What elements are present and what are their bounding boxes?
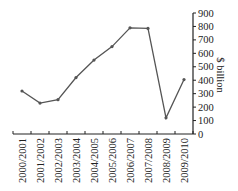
- x-tick-label: 2007/2008: [143, 138, 154, 183]
- data-point-marker: [182, 78, 185, 81]
- y-tick-label: 500: [198, 61, 214, 72]
- y-tick-label: 800: [198, 21, 214, 32]
- y-tick-label: 900: [198, 8, 214, 19]
- data-series: [20, 26, 185, 119]
- y-tick-label: 700: [198, 34, 214, 45]
- y-tick-label: 200: [198, 102, 214, 113]
- x-axis: 2000/20012001/20022002/20032003/20042004…: [13, 131, 193, 183]
- data-point-marker: [20, 89, 23, 92]
- x-tick-label: 2006/2007: [125, 138, 136, 183]
- y-tick-label: 100: [198, 115, 214, 126]
- y-tick-label: 600: [198, 48, 214, 59]
- data-point-marker: [128, 26, 131, 29]
- y-tick-label: 400: [198, 75, 214, 86]
- data-point-marker: [38, 101, 41, 104]
- line-chart: 2000/20012001/20022002/20032003/20042004…: [0, 0, 238, 191]
- x-tick-label: 2001/2002: [35, 138, 46, 183]
- x-tick-label: 2005/2006: [107, 138, 118, 183]
- data-point-marker: [110, 45, 113, 48]
- x-tick-label: 2002/2003: [53, 138, 64, 183]
- data-point-marker: [56, 98, 59, 101]
- x-tick-label: 2000/2001: [17, 138, 28, 183]
- x-tick-label: 2003/2004: [71, 137, 82, 183]
- y-tick-label: 300: [198, 88, 214, 99]
- y-axis-title: $ billion: [215, 57, 226, 93]
- x-tick-label: 2004/2005: [89, 138, 100, 183]
- y-axis: 0100200300400500600700800900: [193, 8, 214, 140]
- data-point-marker: [92, 58, 95, 61]
- x-tick-label: 2009/2010: [179, 138, 190, 183]
- y-tick-label: 0: [198, 129, 203, 140]
- data-point-marker: [74, 76, 77, 79]
- series-line: [22, 28, 184, 118]
- data-point-marker: [146, 27, 149, 30]
- x-tick-label: 2008/2009: [161, 138, 172, 183]
- data-point-marker: [164, 116, 167, 119]
